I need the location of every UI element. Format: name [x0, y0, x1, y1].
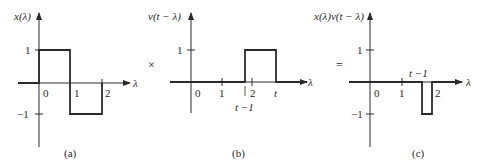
panel-b: v(t − λ) 1 0 1 2 t t −1 λ (b)	[148, 10, 313, 160]
ytick-neg1-c: −1	[351, 108, 363, 120]
y-label-b: v(t − λ)	[148, 10, 181, 23]
xtick-0-b: 0	[195, 87, 201, 99]
ytick-neg1-a: −1	[17, 108, 29, 120]
annotation-t-minus-1-c: t −1	[409, 67, 428, 79]
xtick-2-b: 2	[250, 87, 256, 99]
caption-b: (b)	[232, 147, 245, 160]
y-label-c: x(λ)v(t − λ)	[313, 10, 364, 23]
xtick-1-c: 1	[399, 87, 405, 99]
y-label-a: x(λ)	[13, 10, 31, 23]
xtick-0-a: 0	[43, 87, 49, 99]
signal-product	[349, 82, 462, 114]
xtick-1-a: 1	[74, 87, 80, 99]
times-operator: ×	[148, 58, 155, 72]
signal-x	[18, 50, 102, 114]
x-label-a: λ	[132, 77, 138, 89]
xtick-2-a: 2	[105, 87, 111, 99]
panel-c: x(λ)v(t − λ) 1 −1 0 1 2 t −1 λ (c)	[313, 10, 471, 160]
caption-a: (a)	[64, 147, 77, 160]
annotation-t-minus-1-b: t −1	[235, 101, 254, 113]
xtick-2-c: 2	[435, 87, 441, 99]
panel-a: x(λ) 1 −1 0 1 2 λ (a)	[13, 10, 138, 160]
x-label-b: λ	[307, 76, 313, 88]
xtick-t-b: t	[274, 87, 278, 99]
xtick-1-b: 1	[219, 87, 225, 99]
ytick-1-b: 1	[177, 44, 183, 56]
x-label-c: λ	[465, 76, 471, 88]
ytick-1-c: 1	[357, 44, 363, 56]
equals-operator: =	[336, 58, 343, 72]
xtick-0-c: 0	[374, 87, 380, 99]
caption-c: (c)	[412, 147, 425, 160]
ytick-1-a: 1	[25, 44, 31, 56]
